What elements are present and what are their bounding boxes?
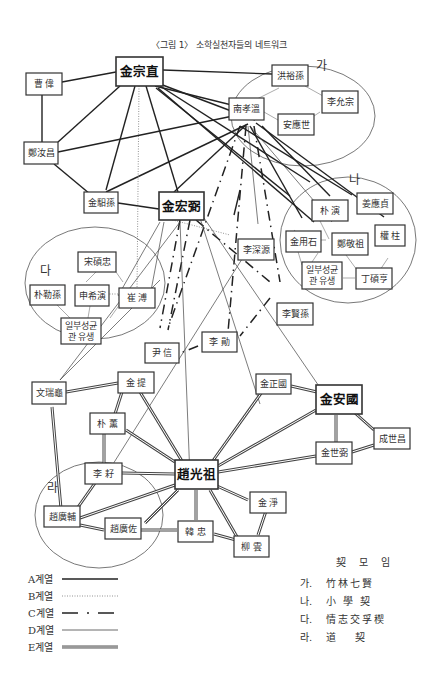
node-yun-sin: 尹 信: [145, 343, 179, 363]
svg-text:文瑞龜: 文瑞龜: [36, 387, 63, 398]
svg-text:李 耔: 李 耔: [93, 468, 114, 479]
node-kim-jeong: 金 淨: [250, 492, 286, 513]
svg-text:曹 偉: 曹 偉: [34, 78, 55, 89]
svg-text:權 柱: 權 柱: [380, 230, 401, 241]
legend-label-e: E계열: [28, 639, 62, 654]
svg-text:趙廣輔: 趙廣輔: [49, 511, 76, 522]
node-yi-ja: 李 耔: [85, 463, 122, 484]
node-seong-sechang: 成世昌: [374, 428, 410, 449]
legend-row-a: A계열: [28, 570, 118, 587]
node-yi-simwon: 李深源: [238, 239, 274, 260]
node-kim-yongseok: 金用石: [286, 231, 321, 252]
node-kim-sepil: 金世弼: [316, 442, 352, 464]
kye-row-ga: 가. 竹林七賢: [300, 575, 395, 593]
svg-text:金安國: 金安國: [319, 392, 359, 407]
legend-line-dotted-icon: [62, 593, 118, 599]
svg-text:金正國: 金正國: [260, 378, 287, 389]
group-ga-label: 가: [316, 59, 327, 73]
node-jeong-gyeongjo: 鄭敬祖: [332, 233, 368, 255]
kye-row-da: 다. 情志交孚稧: [300, 611, 395, 629]
node-song-seokchung: 宋碩忠: [78, 252, 116, 272]
kye-row-na: 나. 小 學 契: [300, 593, 395, 611]
kye-meetings-legend: 契 모 임 가. 竹林七賢 나. 小 學 契 다. 情志交孚稧 라. 道 契: [300, 554, 395, 647]
svg-text:南孝溫: 南孝溫: [233, 103, 260, 114]
node-shin-huiyeon: 申希演: [75, 285, 109, 306]
node-han-chung: 韓 忠: [178, 521, 213, 542]
node-kim-jongjik: 金宗直: [116, 57, 163, 86]
node-an-eungse: 安應世: [278, 114, 314, 135]
line-style-legend: A계열 B계열 C계열 D계열 E계열: [28, 570, 118, 655]
svg-text:趙光祖: 趙光祖: [177, 467, 216, 482]
node-ilbu-na: 일부성균 관 유생: [302, 262, 342, 289]
svg-text:金宗直: 金宗直: [119, 64, 159, 79]
legend-label-d: D계열: [28, 622, 62, 637]
svg-text:관 유생: 관 유생: [68, 332, 95, 342]
node-yi-yunjong: 李允宗: [322, 91, 358, 113]
legend-row-b: B계열: [28, 587, 118, 604]
node-yi-hyeonson: 李賢孫: [277, 303, 313, 325]
node-kim-je: 金 提: [118, 372, 154, 393]
svg-text:관 유생: 관 유생: [309, 276, 336, 286]
svg-text:朴 演: 朴 演: [320, 205, 341, 216]
node-yi-hun: 李 勛: [202, 332, 237, 352]
svg-text:金宏弼: 金宏弼: [161, 199, 201, 214]
legend-row-d: D계열: [28, 621, 118, 638]
svg-text:일부성균: 일부성균: [65, 321, 97, 331]
node-ilbu-da: 일부성균 관 유생: [61, 318, 101, 344]
node-jeong-seokhyeong: 丁碩亨: [356, 268, 392, 289]
legend-line-double-icon: [62, 644, 118, 650]
node-kang-eungjeong: 姜應貞: [357, 193, 393, 214]
node-bak-hun: 朴 薰: [90, 413, 125, 434]
svg-text:金 淨: 金 淨: [258, 497, 279, 508]
group-da-label: 다: [40, 264, 51, 278]
svg-text:洪裕孫: 洪裕孫: [277, 70, 304, 81]
svg-text:李深源: 李深源: [243, 244, 270, 255]
svg-text:尹 信: 尹 信: [152, 347, 173, 358]
svg-text:申希演: 申希演: [79, 290, 106, 301]
svg-text:韓 忠: 韓 忠: [185, 527, 206, 537]
svg-text:安應世: 安應世: [283, 119, 310, 130]
svg-text:宋碩忠: 宋碩忠: [84, 256, 111, 267]
node-gwon-ju: 權 柱: [375, 225, 405, 246]
svg-text:일부성균: 일부성균: [306, 265, 338, 275]
group-ra-label: 라: [47, 481, 58, 495]
svg-text:崔 溥: 崔 溥: [127, 292, 148, 303]
svg-text:李允宗: 李允宗: [327, 96, 354, 107]
legend-label-c: C계열: [28, 605, 62, 620]
svg-text:李 勛: 李 勛: [209, 336, 230, 347]
legend-line-dash-dot-icon: [62, 610, 118, 616]
legend-row-e: E계열: [28, 638, 118, 655]
legend-label-b: B계열: [28, 588, 62, 603]
svg-text:朴 薰: 朴 薰: [97, 418, 118, 429]
svg-text:姜應貞: 姜應貞: [362, 198, 389, 209]
legend-label-a: A계열: [28, 571, 62, 586]
svg-text:金世弼: 金世弼: [321, 447, 348, 458]
node-kim-anguk: 金安國: [316, 385, 362, 414]
kye-row-ra: 라. 道 契: [300, 629, 395, 647]
node-bak-reukson: 朴勒孫: [30, 285, 65, 305]
node-choe-bu: 崔 溥: [119, 288, 155, 308]
svg-text:李賢孫: 李賢孫: [282, 308, 309, 319]
legend-row-c: C계열: [28, 604, 118, 621]
node-kim-ilson: 金馹孫: [84, 192, 118, 213]
svg-text:丁碩亨: 丁碩亨: [361, 273, 388, 284]
legend-line-solid-thin-icon: [62, 627, 118, 633]
node-yu-un: 柳 雲: [234, 536, 269, 557]
node-jeong-yeochang: 鄭汝昌: [24, 142, 58, 164]
node-kim-jeongguk: 金正國: [256, 374, 291, 394]
node-mun-seogwi: 文瑞龜: [32, 382, 66, 404]
svg-text:趙廣佐: 趙廣佐: [110, 523, 137, 534]
node-jo-gwangjwa: 趙廣佐: [105, 518, 141, 539]
svg-text:金馹孫: 金馹孫: [88, 197, 115, 208]
svg-text:鄭敬祖: 鄭敬祖: [337, 238, 364, 249]
legend-line-solid-thick-icon: [62, 576, 118, 582]
node-bak-yeon: 朴 演: [312, 200, 348, 221]
node-jo-wi: 曹 偉: [26, 73, 62, 95]
group-na-label: 나: [349, 173, 360, 187]
svg-text:鄭汝昌: 鄭汝昌: [28, 147, 55, 158]
svg-text:柳 雲: 柳 雲: [241, 541, 262, 552]
svg-text:金 提: 金 提: [126, 377, 147, 388]
svg-text:成世昌: 成世昌: [379, 433, 406, 444]
node-jo-gwangjo: 趙光祖: [175, 460, 218, 489]
kye-title: 契 모 임: [336, 554, 395, 569]
